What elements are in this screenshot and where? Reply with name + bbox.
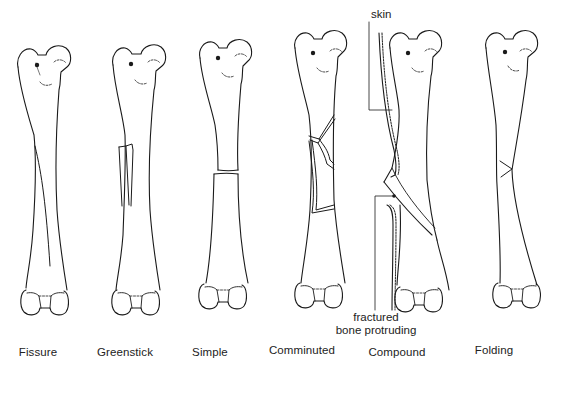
bone-folding [486, 31, 541, 308]
fracture-types-diagram: skin fractured bone protruding Fissure G… [0, 0, 565, 395]
bone-fissure [18, 46, 71, 315]
bone-simple [199, 40, 252, 309]
label-greenstick: Greenstick [97, 346, 153, 358]
label-compound: Compound [368, 346, 425, 358]
bones-illustration [0, 0, 565, 395]
bone-comminuted [295, 31, 347, 308]
label-simple: Simple [192, 346, 228, 358]
skin-annotation: skin [371, 8, 391, 21]
bone-compound [369, 22, 449, 312]
fractured-annotation-line1: fractured [353, 311, 398, 324]
bone-greenstick [112, 45, 166, 315]
label-folding: Folding [475, 344, 513, 356]
label-comminuted: Comminuted [269, 344, 335, 356]
fractured-annotation-line2: bone protruding [336, 324, 417, 337]
label-fissure: Fissure [19, 346, 57, 358]
